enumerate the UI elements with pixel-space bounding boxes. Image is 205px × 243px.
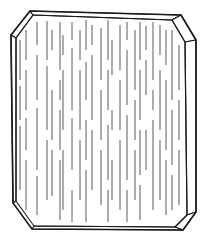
background (0, 0, 205, 243)
wafer-drawing (0, 0, 205, 243)
wafer-illustration (0, 0, 205, 243)
